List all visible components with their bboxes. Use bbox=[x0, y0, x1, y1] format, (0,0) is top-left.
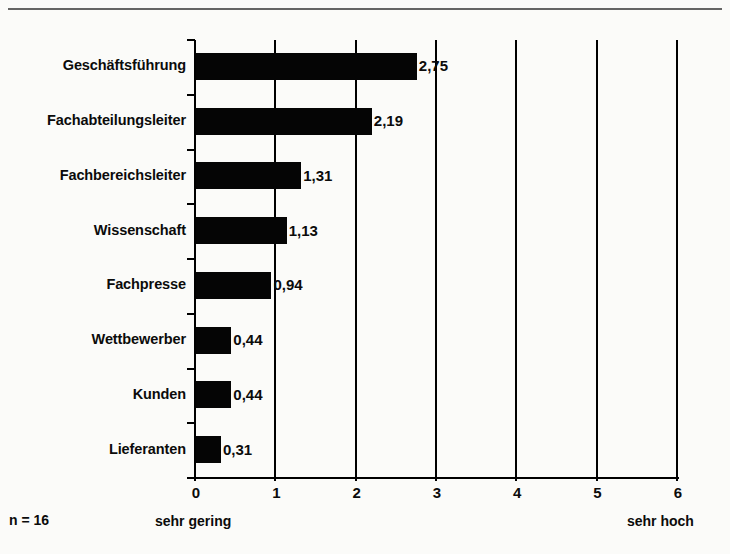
x-axis-tick-label-4: 4 bbox=[497, 484, 537, 501]
gridline-1 bbox=[274, 40, 276, 478]
value-label-6: 0,44 bbox=[233, 386, 262, 403]
category-label-4: Fachpresse bbox=[106, 276, 186, 292]
value-label-5: 0,44 bbox=[233, 331, 262, 348]
scale-low-anchor-label: sehr gering bbox=[155, 513, 231, 529]
category-label-2: Fachbereichsleiter bbox=[60, 167, 186, 183]
x-axis-tick-label-5: 5 bbox=[578, 484, 618, 501]
bar-fachabteilungsleiter bbox=[196, 108, 372, 135]
y-axis-tick-5 bbox=[187, 313, 195, 315]
category-label-0: Geschäftsführung bbox=[63, 57, 186, 73]
category-label-1: Fachabteilungsleiter bbox=[47, 112, 186, 128]
bar-fachpresse bbox=[196, 272, 271, 299]
bar-fachbereichsleiter bbox=[196, 162, 301, 189]
y-axis-tick-2 bbox=[187, 149, 195, 151]
y-axis-tick-1 bbox=[187, 94, 195, 96]
bar-kunden bbox=[196, 381, 231, 408]
sample-size-note: n = 16 bbox=[9, 512, 49, 528]
x-axis-tick-label-6: 6 bbox=[658, 484, 698, 501]
category-label-5: Wettbewerber bbox=[92, 331, 186, 347]
x-axis-tick-2 bbox=[355, 472, 357, 481]
gridline-4 bbox=[515, 40, 517, 478]
y-axis-bottom-cap bbox=[187, 477, 195, 479]
value-label-0: 2,75 bbox=[419, 57, 448, 74]
x-axis-tick-label-0: 0 bbox=[176, 484, 216, 501]
bar-gesch-ftsf-hrung bbox=[196, 53, 417, 80]
x-axis-tick-1 bbox=[274, 472, 276, 481]
category-label-7: Lieferanten bbox=[109, 441, 186, 457]
bar-chart-plot-area: 0123456Geschäftsführung2,75Fachabteilung… bbox=[0, 0, 730, 554]
x-axis-tick-label-1: 1 bbox=[256, 484, 296, 501]
x-axis-tick-label-3: 3 bbox=[417, 484, 457, 501]
y-axis-tick-4 bbox=[187, 258, 195, 260]
value-label-4: 0,94 bbox=[273, 276, 302, 293]
gridline-2 bbox=[355, 40, 357, 478]
gridline-6 bbox=[676, 40, 678, 478]
y-axis-tick-3 bbox=[187, 203, 195, 205]
y-axis-top-cap bbox=[187, 39, 195, 41]
gridline-5 bbox=[596, 40, 598, 478]
bar-wettbewerber bbox=[196, 327, 231, 354]
x-axis-tick-6 bbox=[676, 472, 678, 481]
value-label-3: 1,13 bbox=[289, 222, 318, 239]
category-label-3: Wissenschaft bbox=[94, 222, 186, 238]
x-axis-tick-5 bbox=[596, 472, 598, 481]
x-axis-tick-4 bbox=[515, 472, 517, 481]
figure-page: 0123456Geschäftsführung2,75Fachabteilung… bbox=[0, 0, 730, 554]
category-label-6: Kunden bbox=[133, 386, 186, 402]
y-axis-tick-6 bbox=[187, 368, 195, 370]
y-axis-tick-7 bbox=[187, 422, 195, 424]
value-label-2: 1,31 bbox=[303, 167, 332, 184]
value-label-1: 2,19 bbox=[374, 112, 403, 129]
scale-high-anchor-label: sehr hoch bbox=[627, 513, 694, 529]
value-label-7: 0,31 bbox=[223, 441, 252, 458]
x-axis-tick-label-2: 2 bbox=[337, 484, 377, 501]
x-axis-tick-3 bbox=[435, 472, 437, 481]
bar-lieferanten bbox=[196, 436, 221, 463]
gridline-3 bbox=[435, 40, 437, 478]
bar-wissenschaft bbox=[196, 217, 287, 244]
